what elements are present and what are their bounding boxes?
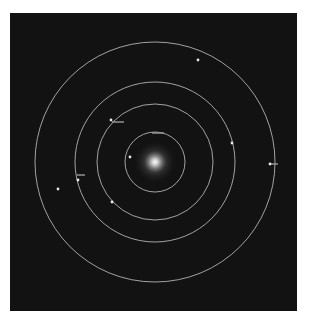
planet-marker [77,179,80,182]
planet-marker [231,142,234,145]
body-label [152,132,164,134]
body-label [77,174,85,176]
planet-marker [129,156,132,159]
planet-marker [57,188,60,191]
planet-marker [197,59,200,62]
planet-marker [111,201,114,204]
central-star [133,140,177,184]
planet-marker [110,119,113,122]
planet-marker [269,163,272,166]
body-label [112,121,124,123]
orbit-diagram [0,0,311,323]
